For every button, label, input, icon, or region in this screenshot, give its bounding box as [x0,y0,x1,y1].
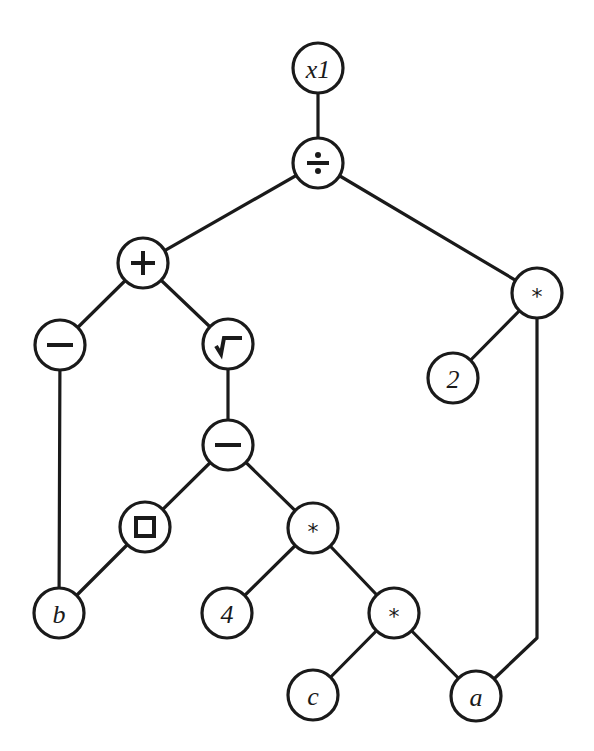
node-label: 2 [447,365,460,394]
expression-tree-diagram: x1*2*b4*ca [0,0,594,751]
edge-div-mulR [318,163,537,293]
node-plus [118,238,168,288]
node-four: 4 [202,588,252,638]
node-a: a [451,671,501,721]
node-mulR: * [512,268,562,318]
node-label: b [53,600,66,629]
tree-nodes: x1*2*b4*ca [34,43,562,721]
edge-mulR-a [476,293,537,696]
node-label: a [470,683,483,712]
multiply-icon: * [308,519,319,544]
node-circle [120,502,170,552]
node-label: 4 [221,600,234,629]
node-mulL: * [369,588,419,638]
node-div [293,138,343,188]
node-two: 2 [428,353,478,403]
node-minM [203,420,253,470]
node-c: c [288,670,338,720]
node-minL [35,320,85,370]
node-sqrt [203,319,253,369]
edge-minL-b [59,345,60,613]
node-b: b [34,588,84,638]
edge-div-plus [143,163,318,263]
multiply-icon: * [532,284,543,309]
node-x1: x1 [293,43,343,93]
node-label: c [307,682,319,711]
node-label: x1 [305,55,331,84]
node-sq [120,502,170,552]
node-circle [203,319,253,369]
multiply-icon: * [389,604,400,629]
node-mulM: * [288,503,338,553]
